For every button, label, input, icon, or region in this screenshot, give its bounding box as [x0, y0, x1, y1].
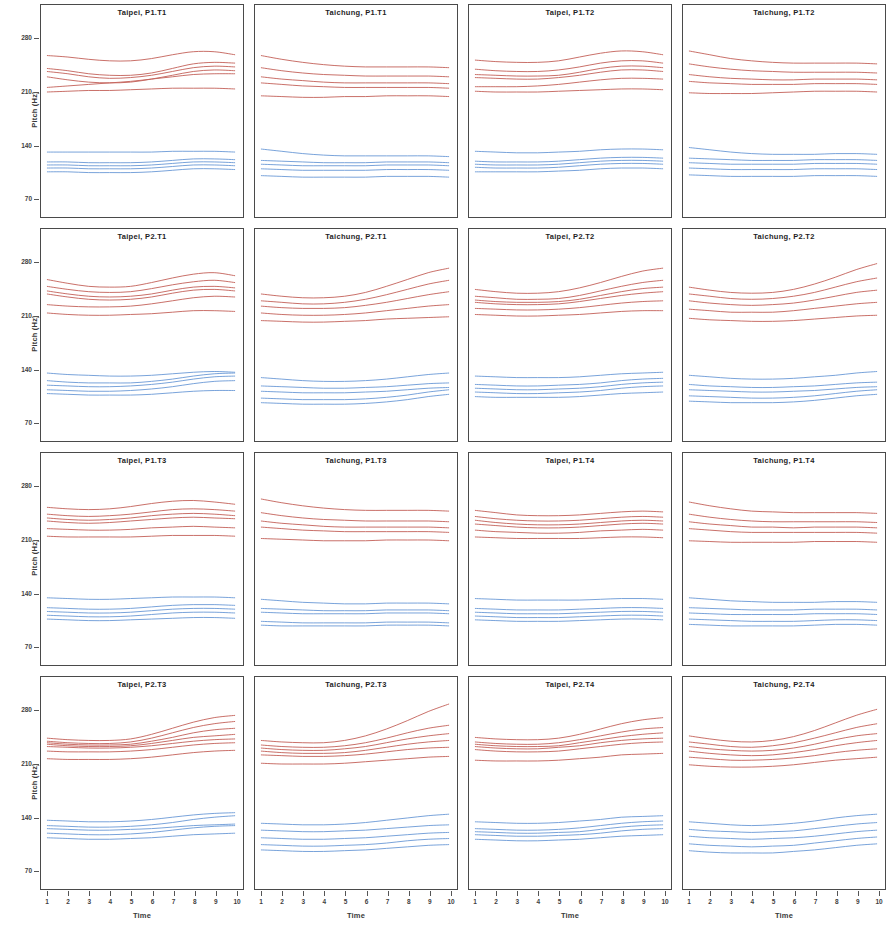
x-tick-label: 2 [272, 898, 292, 905]
panel-lines [41, 5, 243, 217]
x-tick-label: 2 [486, 898, 506, 905]
series-line [261, 521, 449, 528]
series-line [261, 513, 449, 522]
x-tick-mark [538, 891, 539, 896]
y-tick-mark [34, 818, 39, 819]
series-line [689, 64, 877, 73]
series-group-blue [475, 372, 663, 397]
series-group-blue [47, 813, 235, 840]
x-tick-mark [559, 891, 560, 896]
x-tick-label: 1 [251, 898, 271, 905]
series-group-red [475, 510, 663, 538]
y-tick-label: 70 [6, 419, 32, 426]
x-tick-label: 3 [721, 898, 741, 905]
series-group-blue [475, 816, 663, 841]
series-group-red [47, 51, 235, 92]
y-tick-label: 70 [6, 643, 32, 650]
x-tick-mark [795, 891, 796, 896]
x-tick-label: 7 [806, 898, 826, 905]
y-axis-label: Pitch (Hz) [30, 274, 39, 394]
y-tick-label: 140 [6, 366, 32, 373]
x-tick-label: 10 [441, 898, 461, 905]
x-tick-label: 6 [143, 898, 163, 905]
x-tick-mark [110, 891, 111, 896]
series-line [261, 176, 449, 178]
series-line [475, 608, 663, 610]
plot-panel: Taipei, P2.T1 [40, 228, 244, 442]
series-group-blue [47, 597, 235, 621]
series-line [261, 169, 449, 171]
panel-lines [683, 677, 885, 889]
series-line [261, 56, 449, 68]
series-line [261, 756, 449, 764]
series-line [689, 81, 877, 84]
x-tick-mark [174, 891, 175, 896]
series-group-blue [689, 814, 877, 853]
series-line [475, 311, 663, 316]
x-tick-mark [303, 891, 304, 896]
y-tick-mark [34, 647, 39, 648]
series-line [261, 599, 449, 604]
x-tick-label: 6 [571, 898, 591, 905]
series-line [261, 499, 449, 511]
plot-panel: Taipei, P1.T3 [40, 452, 244, 666]
series-line [261, 608, 449, 610]
series-line [689, 502, 877, 513]
x-tick-mark [475, 891, 476, 896]
series-group-blue [261, 149, 449, 177]
series-line [261, 725, 449, 747]
x-tick-mark [68, 891, 69, 896]
series-group-blue [47, 371, 235, 395]
series-group-blue [689, 147, 877, 176]
series-line [689, 740, 877, 755]
panel-lines [469, 453, 671, 665]
series-line [261, 268, 449, 298]
x-tick-mark [430, 891, 431, 896]
x-tick-label: 1 [37, 898, 57, 905]
series-line [689, 514, 877, 522]
y-axis-label: Pitch (Hz) [30, 722, 39, 842]
y-tick-label: 210 [6, 536, 32, 543]
series-line [47, 535, 235, 537]
series-group-blue [475, 598, 663, 621]
series-line [261, 149, 449, 157]
series-line [475, 728, 663, 745]
series-line [47, 151, 235, 152]
series-line [475, 598, 663, 600]
y-tick-label: 140 [6, 590, 32, 597]
x-tick-mark [602, 891, 603, 896]
y-axis-label: Pitch (Hz) [30, 498, 39, 618]
x-tick-mark [623, 891, 624, 896]
series-line [47, 617, 235, 620]
series-line [261, 621, 449, 623]
x-tick-label: 4 [100, 898, 120, 905]
panel-lines [469, 677, 671, 889]
x-tick-label: 8 [185, 898, 205, 905]
series-line [689, 158, 877, 160]
x-tick-mark [644, 891, 645, 896]
series-group-red [689, 51, 877, 94]
series-line [475, 78, 663, 87]
y-tick-mark [34, 423, 39, 424]
x-axis-label: Time [40, 911, 244, 920]
series-group-red [475, 268, 663, 316]
panel-lines [683, 453, 885, 665]
series-line [47, 500, 235, 509]
x-tick-mark [324, 891, 325, 896]
series-line [261, 164, 449, 166]
x-tick-mark [388, 891, 389, 896]
plot-panel: Taichung, P1.T4 [682, 452, 886, 666]
x-tick-mark [451, 891, 452, 896]
series-group-blue [47, 151, 235, 172]
y-tick-label: 70 [6, 867, 32, 874]
y-tick-label: 210 [6, 312, 32, 319]
series-line [689, 163, 877, 165]
plot-panel: Taipei, P1.T2 [468, 4, 672, 218]
series-line [689, 175, 877, 177]
series-line [47, 526, 235, 530]
y-tick-label: 280 [6, 258, 32, 265]
y-tick-mark [34, 486, 39, 487]
series-line [47, 513, 235, 520]
y-tick-mark [34, 146, 39, 147]
series-line [261, 280, 449, 304]
